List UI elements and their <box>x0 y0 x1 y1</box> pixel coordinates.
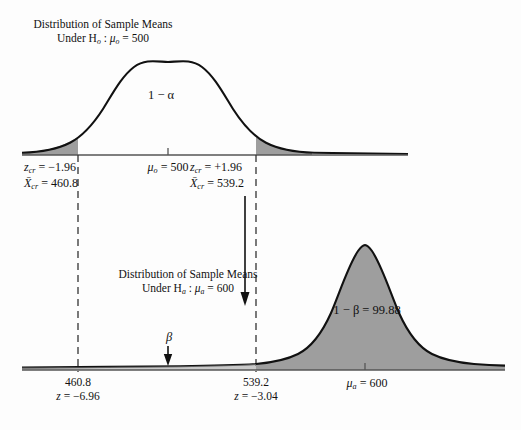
mua-value: = 600 <box>357 376 388 390</box>
beta-label: β <box>166 330 172 345</box>
right-critical-value-block: zcr = +1.96 X̄cr = 539.2 <box>190 160 244 192</box>
bottom-right-tick-value: 539.2 <box>234 376 277 390</box>
left-critical-z-value: = −1.96 <box>35 160 76 174</box>
left-critical-z-line: zcr = −1.96 <box>24 160 78 176</box>
bottom-panel-ha-colon: : <box>186 282 195 294</box>
bottom-right-tick-block: 539.2 z = −3.04 <box>234 376 277 403</box>
right-critical-xbar-value: = 539.2 <box>204 176 244 190</box>
mu0-value: = 500 <box>158 160 189 174</box>
bottom-panel-mu-value: = 600 <box>204 282 234 294</box>
bottom-left-z-value: = −6.96 <box>61 390 100 402</box>
mua-tick-label: μa = 600 <box>347 376 388 392</box>
top-panel-title-line1: Distribution of Sample Means <box>34 18 173 32</box>
left-critical-value-block: zcr = −1.96 X̄cr = 460.8 <box>24 160 78 192</box>
bottom-normal-curve <box>22 245 505 368</box>
right-critical-z-value: = +1.96 <box>201 160 242 174</box>
top-panel-title: Distribution of Sample Means Under Ho : … <box>34 18 173 46</box>
mu0-tick-label: μo = 500 <box>148 160 189 176</box>
distribution-curves-svg <box>0 0 521 430</box>
statistics-figure: Distribution of Sample Means Under Ho : … <box>0 0 521 430</box>
left-critical-xbar-line: X̄cr = 460.8 <box>24 176 78 192</box>
right-critical-xbar-line: X̄cr = 539.2 <box>190 176 244 192</box>
bottom-left-tick-value: 460.8 <box>56 376 99 390</box>
top-panel-h0-prefix: Under H <box>57 32 97 44</box>
bottom-left-tick-z: z = −6.96 <box>56 390 99 404</box>
bottom-panel-title-line1: Distribution of Sample Means <box>119 268 258 282</box>
bottom-panel-title-line2: Under Ha : μa = 600 <box>119 282 258 296</box>
bottom-panel-ha-prefix: Under H <box>142 282 182 294</box>
beta-arrow-head <box>164 354 172 366</box>
one-minus-beta-label: 1 − β = 99.88 <box>333 303 400 318</box>
bottom-right-z-value: = −3.04 <box>239 390 278 402</box>
bottom-panel-title: Distribution of Sample Means Under Ha : … <box>119 268 258 296</box>
bottom-left-tick-block: 460.8 z = −6.96 <box>56 376 99 403</box>
top-panel-title-line2: Under Ho : μo = 500 <box>34 32 173 46</box>
top-panel-mu-value: = 500 <box>119 32 149 44</box>
top-panel-h0-colon: : <box>101 32 110 44</box>
one-minus-alpha-label: 1 − α <box>148 88 174 103</box>
top-normal-curve <box>22 61 408 154</box>
left-critical-xbar-value: = 460.8 <box>38 176 78 190</box>
right-critical-z-line: zcr = +1.96 <box>190 160 244 176</box>
bottom-right-tick-z: z = −3.04 <box>234 390 277 404</box>
